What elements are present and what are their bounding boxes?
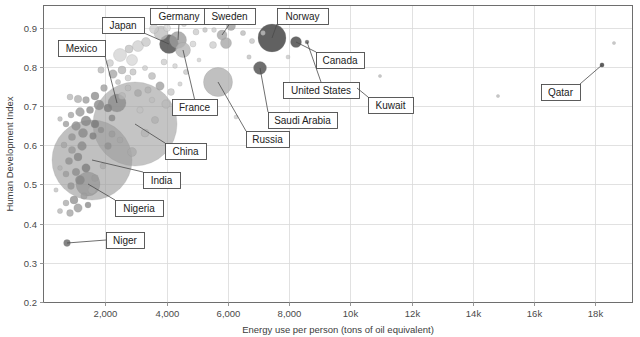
data-point-bubble bbox=[54, 188, 58, 192]
data-point-bubble bbox=[203, 28, 208, 33]
data-point-bubble bbox=[85, 202, 91, 208]
data-point-bubble bbox=[134, 89, 141, 96]
y-tick-label: 0.6 bbox=[24, 140, 37, 151]
data-point-bubble bbox=[92, 175, 99, 182]
data-point-bubble bbox=[142, 38, 151, 47]
annotation-label: China bbox=[172, 146, 199, 157]
annotation-label: Germany bbox=[158, 11, 199, 22]
data-point-bubble bbox=[261, 31, 266, 36]
x-tick-label: 10k bbox=[343, 308, 359, 319]
data-point-bubble bbox=[127, 55, 138, 66]
data-point-bubble bbox=[240, 30, 245, 35]
y-tick-label: 0.4 bbox=[24, 219, 37, 230]
data-point-bubble bbox=[98, 67, 104, 73]
x-tick-label: 16k bbox=[527, 308, 543, 319]
data-point-bubble bbox=[193, 29, 199, 35]
data-point-bubble bbox=[70, 196, 78, 204]
data-point-bubble bbox=[125, 75, 131, 81]
annotation-label: United States bbox=[291, 85, 351, 96]
data-point-bubble bbox=[67, 210, 74, 217]
x-tick-label: 2,000 bbox=[94, 308, 118, 319]
y-tick-label: 0.2 bbox=[24, 297, 37, 308]
data-point-bubble bbox=[115, 79, 120, 84]
data-point-bubble bbox=[88, 186, 96, 194]
data-point-bubble bbox=[130, 69, 136, 75]
data-point-bubble bbox=[164, 25, 171, 32]
y-tick-label: 0.8 bbox=[24, 62, 37, 73]
data-point-bubble bbox=[90, 133, 97, 140]
data-point-bubble bbox=[57, 208, 62, 213]
data-point-bubble bbox=[212, 28, 217, 33]
data-point-bubble bbox=[68, 183, 75, 190]
y-tick-label: 0.3 bbox=[24, 258, 37, 269]
data-point-bubble bbox=[83, 97, 90, 104]
data-point-bubble bbox=[82, 164, 90, 172]
data-point-bubble bbox=[161, 59, 167, 65]
data-point-bubble bbox=[378, 74, 381, 77]
annotation-leader-line bbox=[67, 240, 106, 243]
data-point-bubble bbox=[72, 122, 81, 131]
data-point-bubble bbox=[65, 157, 72, 164]
data-point-bubble bbox=[81, 116, 91, 126]
data-point-bubble bbox=[162, 100, 170, 108]
data-point-bubble bbox=[105, 143, 112, 150]
chart-canvas: 0.20.30.40.50.60.70.80.9 2,0004,0006,000… bbox=[0, 0, 640, 337]
data-point-bubble bbox=[68, 112, 74, 118]
scatter-chart: 0.20.30.40.50.60.70.80.9 2,0004,0006,000… bbox=[0, 0, 640, 337]
data-point-bubble bbox=[173, 64, 178, 69]
data-point-bubble bbox=[98, 127, 104, 133]
x-tick-label: 18k bbox=[588, 308, 604, 319]
data-point-bubble bbox=[86, 106, 93, 113]
y-axis-ticks: 0.20.30.40.50.60.70.80.9 bbox=[24, 23, 44, 308]
annotation-label: Sweden bbox=[211, 11, 247, 22]
x-tick-label: 4,000 bbox=[156, 308, 180, 319]
annotation-label: Saudi Arabia bbox=[274, 115, 331, 126]
data-point-bubble bbox=[63, 171, 69, 177]
data-point-bubble bbox=[137, 107, 143, 113]
data-point-bubble bbox=[91, 92, 99, 100]
data-point-bubble bbox=[74, 95, 82, 103]
annotation-label: Japan bbox=[109, 20, 136, 31]
data-point-bubble bbox=[197, 58, 201, 62]
data-point-bubble bbox=[150, 25, 159, 34]
data-point-bubble bbox=[114, 49, 127, 62]
annotation-label: India bbox=[151, 175, 173, 186]
data-point-bubble bbox=[109, 115, 115, 121]
data-point-bubble bbox=[81, 193, 87, 199]
data-point-bubble bbox=[109, 131, 115, 137]
data-point-bubble bbox=[145, 87, 151, 93]
data-point-bubble bbox=[149, 97, 155, 103]
annotation-leader-line bbox=[183, 50, 195, 99]
data-point-bubble bbox=[117, 137, 123, 143]
data-point-bubble bbox=[125, 85, 131, 91]
x-tick-label: 14k bbox=[466, 308, 482, 319]
data-point-bubble bbox=[76, 108, 85, 117]
annotation-label: Nigeria bbox=[123, 203, 155, 214]
data-point-bubble bbox=[63, 121, 69, 127]
annotation-label: Qatar bbox=[548, 87, 574, 98]
data-point-bubble bbox=[190, 41, 196, 47]
data-point-bubble bbox=[125, 45, 133, 53]
data-point-bubble bbox=[104, 104, 112, 112]
data-point-bubble bbox=[128, 148, 137, 157]
annotation-label: Norway bbox=[286, 11, 320, 22]
data-point-bubble bbox=[156, 82, 164, 90]
data-point-bubble bbox=[63, 200, 69, 206]
data-point-bubble bbox=[148, 72, 155, 79]
x-tick-label: 12k bbox=[405, 308, 421, 319]
data-point-bubble bbox=[78, 128, 87, 137]
y-axis-title: Human Development Index bbox=[4, 96, 15, 211]
data-point-bubble bbox=[612, 41, 615, 44]
data-point-bubble bbox=[249, 38, 254, 43]
annotation-label: France bbox=[179, 102, 211, 113]
data-point-bubble bbox=[286, 55, 290, 59]
data-point-bubble bbox=[75, 175, 84, 184]
data-point-bubble bbox=[58, 166, 63, 171]
data-point-bubble bbox=[151, 116, 158, 123]
x-axis-ticks: 2,0004,0006,0008,00010k12k14k16k18k bbox=[94, 302, 604, 319]
annotation-label: Niger bbox=[113, 235, 138, 246]
data-point-bubble bbox=[68, 146, 75, 153]
y-tick-label: 0.7 bbox=[24, 101, 37, 112]
annotation-label: Russia bbox=[252, 134, 283, 145]
data-point-bubble bbox=[178, 82, 182, 86]
